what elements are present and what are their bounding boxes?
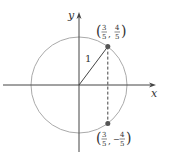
minus-sign: − bbox=[113, 135, 120, 144]
x-denominator: 5 bbox=[102, 33, 106, 41]
open-paren: ( bbox=[96, 23, 101, 39]
point-upper-label: ( 3 5 , 4 5 ) bbox=[96, 23, 126, 41]
close-paren: ) bbox=[121, 23, 126, 39]
comma: , bbox=[108, 136, 111, 146]
y-denominator: 5 bbox=[115, 33, 119, 41]
comma: , bbox=[108, 29, 111, 39]
radius-line bbox=[79, 47, 108, 85]
x-denominator: 5 bbox=[102, 140, 106, 148]
y-numerator: 4 bbox=[115, 24, 120, 32]
x-numerator: 3 bbox=[102, 24, 106, 32]
close-paren: ) bbox=[126, 130, 131, 146]
radius-label: 1 bbox=[85, 53, 91, 64]
x-axis-label: x bbox=[151, 87, 158, 100]
y-numerator: 4 bbox=[120, 131, 125, 139]
point-lower-label: ( 3 5 , − 4 5 ) bbox=[96, 130, 131, 148]
point-lower bbox=[105, 121, 110, 126]
y-denominator: 5 bbox=[120, 140, 124, 148]
unit-circle-diagram: x y 1 ( 3 5 , 4 5 ) ( 3 5 , − 4 5 ) bbox=[0, 0, 170, 159]
y-axis-label: y bbox=[67, 9, 75, 22]
x-numerator: 3 bbox=[102, 131, 106, 139]
point-upper bbox=[105, 44, 110, 49]
open-paren: ( bbox=[96, 130, 101, 146]
